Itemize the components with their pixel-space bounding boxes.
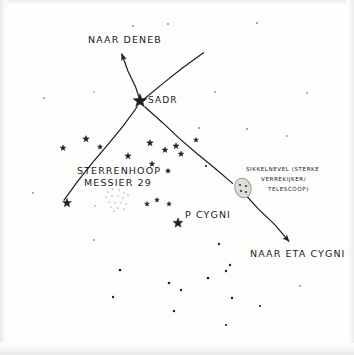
nebula-inner-dot bbox=[245, 185, 247, 187]
faint-star-dot-27 bbox=[299, 285, 301, 287]
nebula-inner-dot bbox=[245, 191, 247, 193]
nebula-layer bbox=[232, 176, 254, 200]
faint-star-dot-24 bbox=[173, 310, 175, 312]
annotation-naar-deneb: NAAR DENEB bbox=[88, 34, 162, 47]
cluster-dot bbox=[105, 196, 107, 198]
star-star-left-2 bbox=[83, 136, 89, 142]
faint-star-dot-20 bbox=[180, 289, 182, 291]
faint-star-dot-18 bbox=[112, 296, 114, 298]
faint-star-dot-07 bbox=[306, 92, 308, 94]
faint-star-dot-01 bbox=[132, 25, 134, 27]
cluster-dot bbox=[123, 208, 125, 210]
faint-star-dot-12 bbox=[32, 192, 34, 194]
nebula-inner-dot bbox=[239, 184, 241, 186]
constellation-line-sadr-upper-right bbox=[143, 53, 204, 100]
constellation-line-eta-cygni-arrow bbox=[243, 192, 289, 241]
star-star-mid-9 bbox=[145, 202, 150, 207]
cluster-dot bbox=[123, 192, 125, 194]
cluster-dot bbox=[107, 191, 109, 193]
faint-star-dot-02 bbox=[167, 23, 169, 25]
faint-star-dot-05 bbox=[93, 91, 95, 93]
annotation-sikkelnevel: SIKKELNEVEL (STERKE bbox=[246, 166, 319, 173]
star-star-mid-11 bbox=[167, 202, 172, 206]
star-star-mid-12 bbox=[194, 138, 199, 143]
star-star-mid-7 bbox=[98, 144, 103, 149]
faint-star-dot-17 bbox=[119, 269, 122, 272]
faint-star-dot-21 bbox=[207, 277, 210, 280]
annotation-p-cygni: P CYGNI bbox=[185, 209, 231, 222]
star-cluster-messier-29-stipple bbox=[105, 188, 129, 212]
cluster-dot bbox=[113, 210, 115, 212]
faint-star-dot-09 bbox=[246, 128, 248, 130]
nebula-sikkelnevel bbox=[232, 176, 254, 200]
star-p-cygni bbox=[173, 218, 183, 227]
faint-star-dot-16 bbox=[229, 264, 231, 266]
faint-star-dot-11 bbox=[205, 165, 207, 167]
star-star-left-3 bbox=[60, 145, 66, 150]
star-sadr bbox=[133, 94, 147, 107]
cluster-dot bbox=[117, 207, 119, 209]
star-star-mid-2 bbox=[173, 143, 179, 149]
star-star-mid-5 bbox=[125, 153, 131, 159]
cluster-dot bbox=[120, 202, 122, 204]
star-star-mid-10 bbox=[155, 198, 160, 202]
faint-star-dot-13 bbox=[94, 205, 96, 207]
faint-stars-layer bbox=[32, 22, 308, 326]
star-star-mid-8 bbox=[166, 168, 171, 173]
star-star-mid-4 bbox=[178, 151, 184, 156]
faint-star-dot-04 bbox=[43, 97, 45, 99]
faint-star-dot-14 bbox=[93, 239, 95, 241]
cluster-dot bbox=[117, 195, 119, 197]
faint-star-dot-15 bbox=[218, 243, 220, 245]
cluster-dot bbox=[122, 197, 124, 199]
faint-star-dot-23 bbox=[231, 297, 233, 299]
cluster-dot bbox=[127, 194, 129, 196]
cluster-dot bbox=[125, 203, 127, 205]
bright-stars-layer bbox=[60, 94, 198, 227]
constellation-line-deneb-arrow bbox=[122, 54, 141, 103]
faint-star-dot-22 bbox=[225, 270, 227, 272]
star-star-mid-1 bbox=[147, 140, 153, 146]
cluster-dot bbox=[110, 206, 112, 208]
cluster-dot bbox=[111, 195, 113, 197]
faint-star-dot-25 bbox=[225, 324, 227, 326]
nebula-inner-dot bbox=[240, 190, 242, 192]
faint-star-dot-26 bbox=[259, 305, 261, 307]
faint-star-dot-10 bbox=[286, 135, 288, 137]
star-star-mid-3 bbox=[162, 147, 168, 152]
annotation-sadr: SADR bbox=[148, 95, 178, 107]
cluster-dot bbox=[114, 202, 116, 204]
annotation-verrekijker: VERREKIJKER/ bbox=[261, 176, 306, 183]
annotation-telescoop: TELESCOOP) bbox=[268, 186, 309, 193]
annotation-naar-eta-cygni: NAAR ETA CYGNI bbox=[250, 248, 346, 261]
annotation-sterrenhoop-m29: STERRENHOOP bbox=[77, 165, 161, 178]
faint-star-dot-19 bbox=[168, 282, 171, 285]
cluster-dot bbox=[108, 201, 110, 203]
faint-star-dot-03 bbox=[256, 22, 258, 24]
faint-star-dot-06 bbox=[214, 91, 216, 93]
annotation-messier-29: MESSIER 29 bbox=[84, 177, 152, 190]
faint-star-dot-08 bbox=[198, 127, 200, 129]
star-chart: NAAR DENEBSADRSTERRENHOOPMESSIER 29P CYG… bbox=[0, 0, 354, 355]
